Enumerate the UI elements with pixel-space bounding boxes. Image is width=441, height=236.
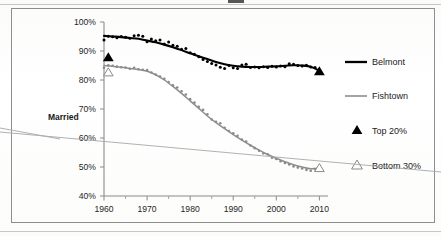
chart-plot: 100%90%80%70%60%50%40% 19601970198019902… [0,0,441,236]
legend-label-belmont: Belmont [372,57,406,67]
data-point [215,63,218,66]
legend-label-fishtown: Fishtown [372,91,408,101]
x-axis-ticks [104,196,319,201]
y-tick-label: 50% [79,162,97,172]
data-point [103,67,106,70]
y-tick-label: 70% [79,104,97,114]
x-tick-label: 2000 [267,204,286,214]
y-axis-tick-labels: 100%90%80%70%60%50%40% [74,17,96,201]
data-point [103,38,106,41]
legend-label-top20: Top 20% [372,126,407,136]
x-tick-label: 1990 [224,204,243,214]
series-fishtown [103,64,321,172]
y-tick-label: 80% [79,75,97,85]
data-point [309,169,312,172]
fishtown-scatter-points [103,64,321,172]
bottom30-triangle-marker [104,68,114,76]
y-tick-label: 40% [79,191,97,201]
legend-item-belmont: Belmont [345,57,406,67]
y-axis-ticks [100,22,104,196]
data-point [223,67,226,70]
legend-item-top20: Top 20% [352,125,407,136]
belmont-trend-line [104,36,319,71]
data-point [159,38,162,41]
data-point [141,35,144,38]
data-point [219,66,222,69]
data-point [167,41,170,44]
fishtown-trend-line [104,66,319,169]
legend-swatch-filled-triangle-icon [352,125,363,134]
x-tick-label: 1970 [138,204,157,214]
data-point [210,62,213,65]
scan-artifact-streak [0,132,441,172]
x-tick-label: 1980 [181,204,200,214]
data-point [219,122,222,125]
data-point [245,63,248,66]
chart-figure: 100%90%80%70%60%50%40% 19601970198019902… [0,0,441,236]
legend-item-fishtown: Fishtown [345,91,408,101]
scan-artifact-streak-upper [0,128,60,139]
bottom30-triangle-marker [315,164,325,172]
y-tick-label: 90% [79,46,97,56]
x-axis-tick-labels: 196019701980199020002010 [94,204,329,214]
chart-legend: Belmont Fishtown Top 20% Bottom 30% [345,57,421,171]
y-tick-label: 100% [74,17,96,27]
y-axis-title: Married [48,112,79,122]
data-point [184,47,187,50]
data-point [137,34,140,37]
x-tick-label: 1960 [94,204,113,214]
data-point [133,34,136,37]
series-belmont [103,34,321,72]
x-tick-label: 2010 [310,204,329,214]
endpoint-markers [103,52,325,171]
y-tick-label: 60% [79,133,97,143]
